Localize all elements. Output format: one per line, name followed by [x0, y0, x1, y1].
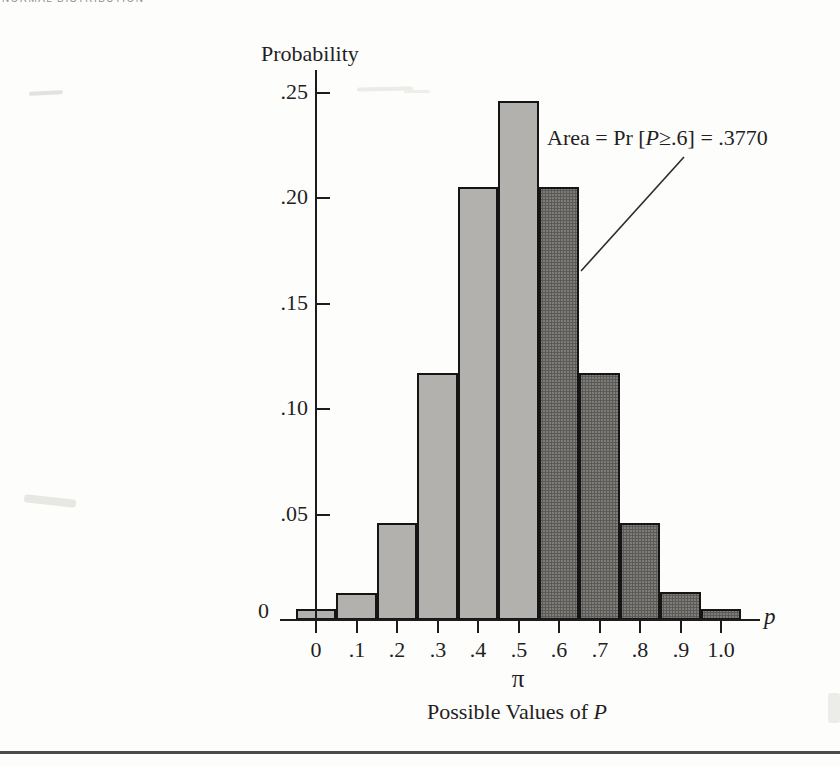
x-tick-.7 — [599, 621, 601, 633]
x-tick-.9 — [680, 621, 682, 633]
figure-caption: Possible Values of P — [397, 699, 637, 725]
histogram-bar-.2 — [377, 523, 418, 620]
histogram-bar-.3 — [417, 373, 458, 620]
histogram-figure: Probability Area = Pr [P≥.6] = .3770 p π… — [0, 0, 840, 766]
annotation-operator: ≥ — [659, 125, 671, 150]
x-tick-1.0 — [720, 621, 722, 633]
x-axis-line — [280, 619, 760, 621]
book-page: NORMAL DISTRIBUTION Probability Area = P… — [0, 0, 840, 766]
y-tick-.25 — [317, 92, 330, 94]
scan-smudge — [828, 693, 840, 723]
y-axis-title: Probability — [261, 41, 359, 67]
x-tick-.2 — [396, 621, 398, 633]
y-tick-label-.25: .25 — [281, 79, 309, 105]
figure-caption-variable: P — [593, 699, 606, 724]
x-tick-0 — [315, 621, 317, 633]
x-tick-.8 — [639, 621, 641, 633]
histogram-bar-.5 — [498, 101, 539, 620]
y-tick-.20 — [317, 197, 330, 199]
annotation-suffix: .6] = .3770 — [671, 125, 768, 150]
y-tick-.05 — [317, 514, 330, 516]
x-tick-.5 — [518, 621, 520, 633]
y-tick-label-.05: .05 — [281, 501, 309, 527]
histogram-bar-.6 — [539, 187, 580, 620]
histogram-bar-.8 — [620, 523, 661, 620]
annotation-variable: P — [646, 125, 659, 150]
y-axis-line — [315, 70, 317, 621]
y-tick-.15 — [317, 303, 330, 305]
histogram-bar-.9 — [660, 592, 701, 620]
y-tick-.10 — [317, 408, 330, 410]
x-tick-.4 — [477, 621, 479, 633]
y-tick-label-0: 0 — [258, 598, 269, 624]
annotation-text: Area = Pr [P≥.6] = .3770 — [547, 125, 768, 151]
x-tick-.6 — [558, 621, 560, 633]
histogram-bar-.4 — [458, 187, 499, 620]
x-tick-.3 — [437, 621, 439, 633]
y-tick-label-.20: .20 — [281, 184, 309, 210]
y-tick-label-.10: .10 — [281, 395, 309, 421]
x-tick-label-1.0: 1.0 — [691, 637, 751, 663]
bottom-rule — [0, 751, 840, 754]
y-tick-label-.15: .15 — [281, 290, 309, 316]
annotation-prefix: Area = Pr [ — [547, 125, 646, 150]
pi-symbol: π — [503, 665, 533, 693]
x-tick-.1 — [356, 621, 358, 633]
scan-smudge — [404, 90, 430, 93]
histogram-bar-.1 — [336, 593, 377, 620]
figure-caption-text: Possible Values of — [427, 699, 593, 724]
x-axis-end-label: p — [764, 604, 776, 630]
histogram-bar-.7 — [579, 373, 620, 620]
